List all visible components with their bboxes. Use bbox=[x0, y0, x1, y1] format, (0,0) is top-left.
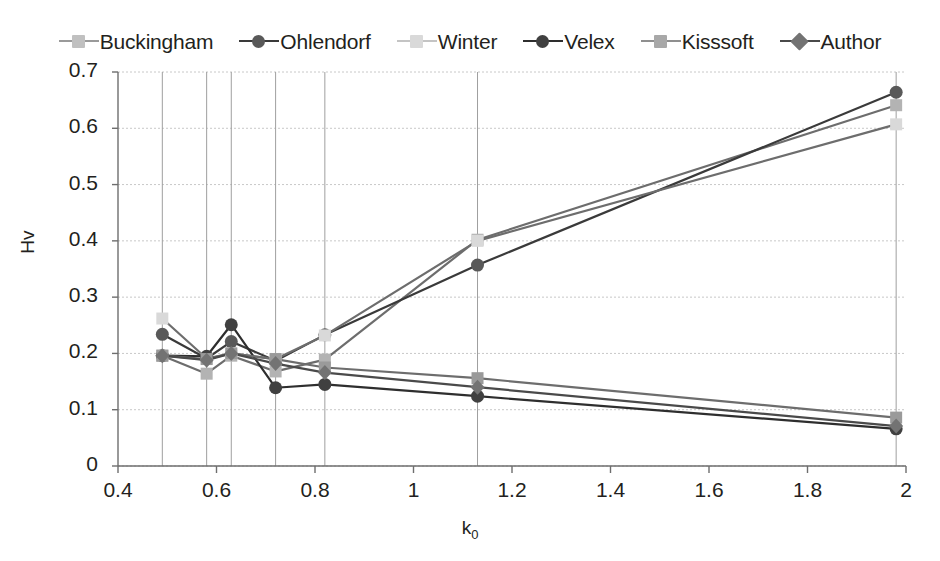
data-point-winter-5 bbox=[472, 235, 484, 247]
chart-root: Buckingham Ohlendorf Winter Velex bbox=[0, 0, 940, 561]
data-point-velex-2 bbox=[225, 318, 238, 331]
data-point-ohlendorf-5 bbox=[471, 259, 484, 272]
data-point-velex-3 bbox=[269, 381, 282, 394]
data-point-winter-6 bbox=[890, 118, 902, 130]
data-point-buckingham-1 bbox=[201, 368, 213, 380]
data-point-buckingham-6 bbox=[890, 99, 902, 111]
plot-area bbox=[0, 0, 940, 561]
data-point-winter-4 bbox=[319, 329, 331, 341]
data-point-ohlendorf-0 bbox=[156, 328, 169, 341]
data-point-ohlendorf-6 bbox=[890, 86, 903, 99]
data-point-winter-0 bbox=[156, 313, 168, 325]
